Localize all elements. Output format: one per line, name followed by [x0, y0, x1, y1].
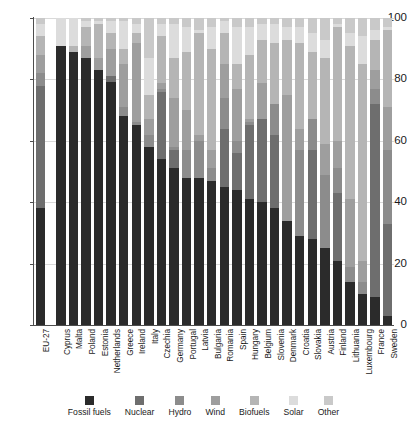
- bars-group: [34, 18, 394, 325]
- bar-segment-wind: [282, 95, 291, 221]
- bar-segment-nuclear: [169, 150, 178, 168]
- bar-slovakia: [308, 18, 317, 325]
- bar-segment-biofuels: [182, 52, 191, 110]
- legend-item-wind: Wind: [205, 396, 225, 417]
- bar-segment-fossil-fuels: [308, 239, 317, 325]
- bar-segment-fossil-fuels: [69, 52, 78, 325]
- x-axis-label: Czechia: [164, 329, 172, 359]
- bar-segment-other: [144, 18, 153, 58]
- x-axis-label: EU-27: [43, 329, 51, 352]
- bar-segment-solar: [320, 40, 329, 58]
- bar-segment-nuclear: [232, 153, 241, 190]
- x-axis-label: Croatia: [303, 329, 311, 355]
- bar-segment-biofuels: [169, 58, 178, 98]
- bar-segment-solar: [132, 24, 141, 33]
- x-axis-label: Finland: [340, 329, 348, 356]
- bar-segment-wind: [333, 141, 342, 169]
- x-axis-label: Latvia: [202, 329, 210, 351]
- bar-segment-other: [345, 18, 354, 33]
- bar-segment-fossil-fuels: [194, 178, 203, 325]
- bar-segment-solar: [358, 36, 367, 64]
- bar-segment-fossil-fuels: [232, 190, 241, 325]
- legend-item-nuclear: Nuclear: [125, 396, 155, 417]
- x-axis-label: Hungary: [252, 329, 260, 360]
- legend-item-other: Other: [318, 396, 340, 417]
- bar-segment-solar: [345, 33, 354, 45]
- bar-segment-biofuels: [245, 55, 254, 119]
- bar-segment-wind: [207, 150, 216, 168]
- bar-denmark: [282, 18, 291, 325]
- bar-segment-nuclear: [157, 92, 166, 160]
- x-axis-label: Sweden: [391, 329, 399, 359]
- bar-segment-nuclear: [245, 125, 254, 199]
- bar-france: [370, 18, 379, 325]
- bar-segment-other: [182, 18, 191, 27]
- bar-segment-biofuels: [320, 58, 329, 144]
- bar-segment-nuclear: [257, 119, 266, 202]
- bar-segment-solar: [106, 21, 115, 33]
- bar-segment-fossil-fuels: [182, 178, 191, 325]
- bar-segment-biofuels: [270, 43, 279, 104]
- bar-eu-27: [36, 18, 45, 325]
- bar-segment-other: [282, 18, 291, 27]
- bar-segment-other: [370, 18, 379, 30]
- legend-swatch: [135, 396, 144, 405]
- bar-segment-wind: [132, 43, 141, 123]
- bar-segment-wind: [370, 70, 379, 88]
- legend-swatch: [211, 396, 220, 405]
- bar-ireland: [132, 18, 141, 325]
- x-axis-label: Greece: [127, 329, 135, 356]
- x-axis-label: Austria: [328, 329, 336, 354]
- bar-segment-solar: [245, 27, 254, 55]
- bar-segment-nuclear: [308, 150, 317, 239]
- bar-segment-nuclear: [383, 224, 392, 316]
- bar-segment-wind: [232, 89, 241, 141]
- bar-segment-biofuels: [345, 46, 354, 200]
- bar-segment-biofuels: [144, 95, 153, 120]
- bar-segment-biofuels: [36, 36, 45, 54]
- bar-poland: [81, 18, 90, 325]
- bar-spain: [232, 18, 241, 325]
- bar-segment-wind: [345, 199, 354, 267]
- bar-segment-fossil-fuels: [383, 316, 392, 325]
- bar-segment-solar: [182, 27, 191, 52]
- bar-croatia: [295, 18, 304, 325]
- bar-segment-fossil-fuels: [270, 208, 279, 325]
- legend-label: Hydro: [168, 408, 191, 417]
- bar-segment-solar: [270, 24, 279, 42]
- bar-segment-fossil-fuels: [81, 58, 90, 325]
- bar-estonia: [94, 18, 103, 325]
- x-axis-label: Cyprus: [64, 329, 72, 355]
- legend-label: Solar: [284, 408, 304, 417]
- bar-segment-fossil-fuels: [157, 159, 166, 325]
- x-axis-line: [33, 325, 394, 326]
- bar-segment-nuclear: [220, 129, 229, 187]
- bar-segment-hydro: [270, 104, 279, 135]
- bar-segment-nuclear: [270, 135, 279, 209]
- x-axis-label: Spain: [240, 329, 248, 350]
- bar-segment-fossil-fuels: [207, 181, 216, 325]
- legend-label: Fossil fuels: [68, 408, 111, 417]
- bar-segment-solar: [119, 21, 128, 49]
- x-axis-label: Germany: [177, 329, 185, 363]
- bar-segment-other: [194, 18, 203, 30]
- legend-label: Biofuels: [239, 408, 270, 417]
- bar-segment-biofuels: [157, 36, 166, 82]
- bar-segment-wind: [383, 107, 392, 150]
- bar-segment-fossil-fuels: [333, 261, 342, 325]
- x-axis-label: France: [378, 329, 386, 354]
- bar-segment-solar: [157, 24, 166, 36]
- bar-netherlands: [106, 18, 115, 325]
- bar-segment-hydro: [207, 168, 216, 180]
- bar-latvia: [194, 18, 203, 325]
- x-axis-label: Slovenia: [278, 329, 286, 360]
- x-axis-label: Poland: [89, 329, 97, 355]
- bar-bulgaria: [207, 18, 216, 325]
- bar-segment-hydro: [333, 168, 342, 193]
- x-axis-label: Slovakia: [315, 329, 323, 360]
- bar-austria: [320, 18, 329, 325]
- bar-segment-biofuels: [232, 64, 241, 89]
- bar-italy: [144, 18, 153, 325]
- bar-segment-biofuels: [308, 52, 317, 120]
- bar-segment-hydro: [383, 150, 392, 224]
